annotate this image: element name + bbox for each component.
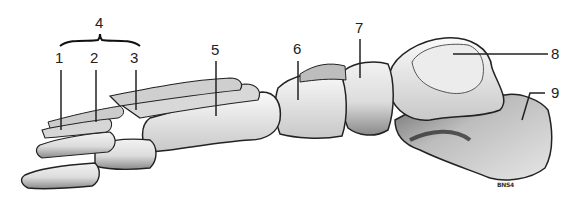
label-4: 4 <box>95 15 103 30</box>
cuneiform <box>275 72 346 139</box>
label-1: 1 <box>55 50 63 65</box>
label-6: 6 <box>293 41 301 56</box>
label-7: 7 <box>355 20 363 35</box>
label-3: 3 <box>130 50 138 65</box>
brace-4 <box>60 34 140 46</box>
distal-phalanx-big-toe <box>22 163 100 189</box>
label-2: 2 <box>90 50 98 65</box>
label-8: 8 <box>551 46 559 61</box>
foot-bones-drawing <box>0 0 572 205</box>
foot-bones-illustration: 1 2 3 4 5 6 7 8 9 BNS4 <box>0 0 572 205</box>
navicular <box>342 62 394 135</box>
label-5: 5 <box>211 42 219 57</box>
artist-signature: BNS4 <box>497 181 514 188</box>
label-9: 9 <box>551 85 559 100</box>
